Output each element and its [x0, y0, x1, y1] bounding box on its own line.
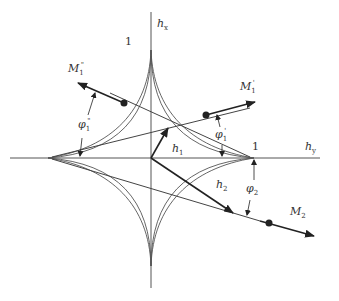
h2-label: h2: [216, 178, 228, 193]
phi1-double-prime-label: φ1": [78, 117, 90, 133]
phi2-arrow-down: [247, 200, 250, 215]
astroid-lower-left: [48, 158, 151, 266]
m2-point: [266, 220, 273, 227]
phi1-double-prime-arrow-down: [80, 138, 82, 156]
hx-one-label: 1: [125, 35, 132, 48]
m1-double-prime-point: [121, 100, 128, 107]
h1-vector: [151, 128, 168, 158]
m1-prime-point: [203, 112, 210, 119]
astroid-upper-left: [48, 50, 151, 158]
hy-one-label: 1: [252, 140, 259, 153]
astroid-diagram: hx 1 hy 1 h1 h2 M1" M1' M2 φ1" φ1' φ2: [0, 0, 339, 301]
tangent-line-upper-neg: [110, 93, 250, 157]
phi2-label: φ2: [246, 182, 258, 197]
astroid-lower-right: [151, 158, 254, 266]
m1-double-prime-label: M1": [67, 61, 84, 77]
astroid-upper-right: [151, 50, 254, 158]
hx-axis-label: hx: [157, 17, 168, 32]
phi1-prime-arrow-up: [217, 115, 220, 127]
phi1-double-prime-arrow-up: [88, 93, 95, 115]
tangent-line-lower: [52, 159, 260, 221]
phi1-prime-label: φ1': [215, 127, 227, 143]
m1-double-prime-vector: [78, 83, 124, 103]
h1-label: h1: [172, 142, 184, 157]
hy-axis-label: hy: [305, 140, 316, 155]
m1-prime-label: M1': [239, 79, 256, 95]
m2-label: M2: [289, 205, 306, 220]
